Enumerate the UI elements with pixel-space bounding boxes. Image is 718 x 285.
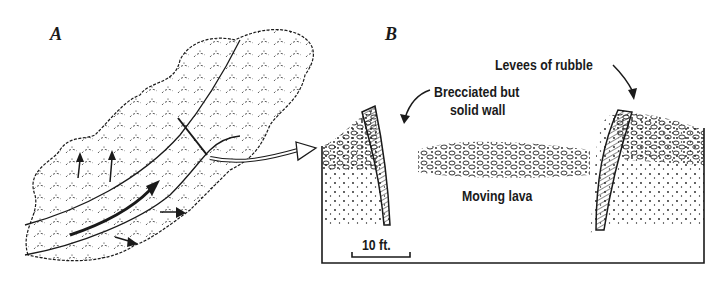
moving-lava-label: Moving lava	[462, 187, 532, 204]
wall-leader-arrow	[405, 90, 430, 118]
panel-a-plan-view	[25, 30, 316, 261]
levees-label: Levees of rubble	[495, 56, 593, 73]
scale-label: 10 ft.	[362, 236, 391, 253]
wall-label-line2: solid wall	[450, 101, 505, 118]
wall-label-line1: Brecciated but	[434, 83, 519, 100]
channel-rubble-crust	[418, 142, 590, 178]
levee-leader-arrow	[613, 65, 633, 92]
diagram-canvas	[0, 0, 718, 285]
panel-b-label: B	[385, 24, 397, 45]
panel-a-label: A	[50, 24, 62, 45]
